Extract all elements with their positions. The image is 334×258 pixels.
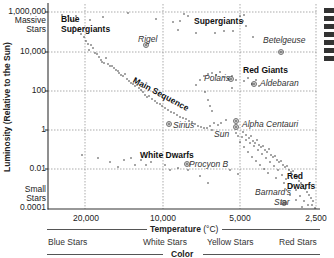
clipped-text-fragment [324,48,334,53]
star-label-polaris: Polaris [204,73,230,83]
region-blue-supergiants-line2: Supergiants [61,25,110,35]
x-tick-5000: 5,000 [229,213,250,223]
clipped-text-fragment [324,40,334,45]
x-tick-20000: 20,000 [73,213,99,223]
clipped-text-fragment [324,16,334,21]
star-label-barnards-line1: Barnard's [255,187,291,197]
x-axis-title: Temperature (°C) [150,224,218,234]
hr-diagram: Luminosity (Relative to the Sun) 1,000,0… [0,0,334,258]
region-blue-supergiants: Blue Supergiants [61,15,110,34]
y-tick-10000: 10,000 [20,47,46,56]
color-title: Color [171,249,193,258]
star-label-aldebaran: Aldebaran [260,78,299,88]
clipped-text-fragment [324,56,334,61]
clipped-text-fragment [324,8,334,13]
color-white-stars: White Stars [143,237,187,247]
region-white-dwarfs: White Dwarfs [140,151,194,161]
y-tick-0.0001: 0.0001 [20,203,46,212]
region-supergiants: Supergiants [194,17,243,27]
star-label-alpha-centauri: Alpha Centauri [242,119,298,129]
massive-label-line2: Stars [26,25,46,35]
region-red-dwarfs: Red Dwarfs [287,172,315,191]
temperature-rule-left [47,229,147,230]
star-label-barnards-line2: Star [274,197,290,207]
star-label-procyon-b: Procyon B [189,159,228,169]
clipped-text-fragment [324,24,334,29]
x-tick-10000: 10,000 [150,213,176,223]
star-label-betelgeuse: Betelgeuse [263,35,306,45]
color-yellow-stars: Yellow Stars [207,237,253,247]
region-red-giants: Red Giants [243,66,288,76]
x-tick-2500: 2,500 [305,213,326,223]
star-label-sirius: Sirius [173,120,194,130]
y-tick-100: 100 [32,86,46,95]
color-rule-right [203,254,320,255]
region-red-dwarfs-line2: Dwarfs [287,182,315,192]
temperature-rule-right [222,229,320,230]
x-axis-unit: (°C) [203,224,218,234]
star-label-sun: Sun [214,129,229,139]
star-label-rigel: Rigel [138,34,157,44]
y-axis-title: Luminosity (Relative to the Sun) [2,42,12,172]
clipped-text-fragment [324,32,334,37]
color-blue-stars: Blue Stars [48,237,87,247]
color-rule-left [47,254,163,255]
x-axis-title-text: Temperature [150,224,201,234]
y-tick-0.01: 0.01 [29,164,46,173]
y-tick-1: 1 [41,125,46,134]
color-red-stars: Red Stars [279,237,317,247]
